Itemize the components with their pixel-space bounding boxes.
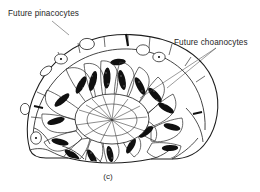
figure-caption: (c) — [103, 172, 113, 181]
label-future-choanocytes: Future choanocytes — [174, 38, 248, 47]
label-future-pinacocytes: Future pinacocytes — [8, 9, 79, 18]
sponge-larva-illustration: Future pinacocytes Future choanocytes (c… — [0, 0, 260, 192]
leader-pinacocytes — [52, 21, 69, 35]
figure-container: Future pinacocytes Future choanocytes (c… — [0, 0, 260, 192]
central-cavity — [75, 94, 149, 144]
